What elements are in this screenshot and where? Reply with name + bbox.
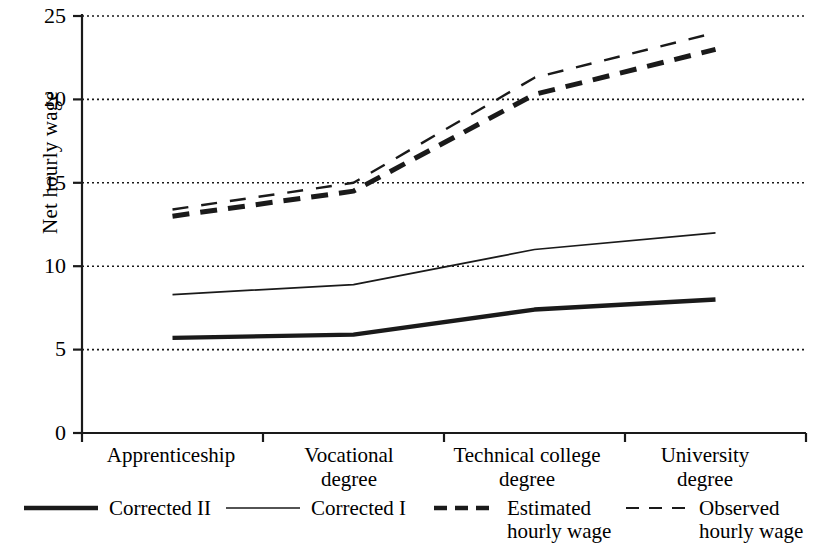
chart-container: Net hourly wage 25 20 15 10 5 0 Apprenti… xyxy=(0,0,814,545)
x-tick-label-vocational-degree-text: Vocational degree xyxy=(304,443,393,491)
legend-item-observed-hourly-wage[interactable]: Observed hourly wage xyxy=(624,497,803,543)
series-line-1 xyxy=(173,233,716,295)
x-tick-label-university-degree-text: University degree xyxy=(661,443,750,491)
axis-lines xyxy=(82,14,806,434)
y-tick-marks xyxy=(73,16,82,433)
x-tick-label-university-degree: University degree xyxy=(615,443,795,491)
series-lines xyxy=(173,33,716,338)
legend-item-corrected-ii[interactable]: Corrected II xyxy=(24,497,211,520)
plot-area xyxy=(0,0,814,455)
x-tick-label-technical-college-degree-text: Technical college degree xyxy=(453,443,600,491)
legend-label-estimated-hourly-wage: Estimated hourly wage xyxy=(507,497,611,543)
legend-swatch-thin-dashed-icon xyxy=(624,498,688,518)
legend-item-corrected-i[interactable]: Corrected I xyxy=(226,497,406,520)
legend-swatch-thick-solid-icon xyxy=(24,498,98,518)
legend-item-estimated-hourly-wage[interactable]: Estimated hourly wage xyxy=(432,497,611,543)
legend-swatch-thin-solid-icon xyxy=(226,498,300,518)
x-tick-label-technical-college-degree: Technical college degree xyxy=(437,443,617,491)
legend: Corrected II Corrected I Estimated hourl… xyxy=(0,497,814,545)
x-tick-label-apprenticeship: Apprenticeship xyxy=(81,443,261,467)
x-tick-label-vocational-degree: Vocational degree xyxy=(259,443,439,491)
legend-swatch-thick-dashed-icon xyxy=(432,498,496,518)
series-line-0 xyxy=(173,300,716,338)
legend-label-corrected-ii: Corrected II xyxy=(109,497,211,520)
x-tick-marks xyxy=(82,433,806,442)
legend-label-corrected-i: Corrected I xyxy=(311,497,406,520)
series-line-2 xyxy=(173,49,716,216)
legend-label-observed-hourly-wage: Observed hourly wage xyxy=(699,497,803,543)
